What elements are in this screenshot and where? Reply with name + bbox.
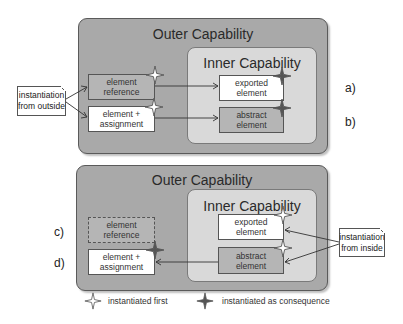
filled-star-icon bbox=[146, 241, 164, 259]
legend-instantiated-as-consequence: instantiated as consequence bbox=[222, 296, 330, 306]
filled-star-icon bbox=[273, 67, 291, 85]
hollow-star-icon bbox=[146, 66, 164, 84]
legend-instantiated-first: instantiated first bbox=[108, 296, 168, 306]
hollow-star-icon bbox=[274, 239, 292, 257]
hollow-star-icon bbox=[274, 206, 292, 224]
arrow-note-to-abstract bbox=[285, 244, 339, 262]
legend-hollow-star-icon bbox=[85, 293, 101, 309]
arrow-note-to-reference bbox=[66, 87, 87, 99]
arrow-note-to-assignment bbox=[66, 102, 87, 117]
filled-star-icon bbox=[273, 99, 291, 117]
hollow-star-icon bbox=[145, 98, 163, 116]
arrow-note-to-exported bbox=[285, 230, 339, 242]
connectors-overlay bbox=[0, 0, 403, 324]
legend-filled-star-icon bbox=[197, 293, 213, 309]
